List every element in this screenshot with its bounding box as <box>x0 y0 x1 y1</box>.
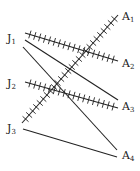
node-label-a2: A2 <box>122 58 134 71</box>
edges-layer <box>0 0 140 171</box>
node-label-j3: J3 <box>7 123 16 136</box>
node-label-j2: J2 <box>7 78 16 91</box>
edge-j1-a3 <box>25 40 118 100</box>
network-diagram: J1 J2 J3 A1 A2 A3 A4 <box>0 0 140 171</box>
edge-j1-a4 <box>23 47 117 150</box>
node-label-a3: A3 <box>122 101 134 114</box>
node-label-a4: A4 <box>122 150 134 163</box>
node-label-a1: A1 <box>122 11 134 24</box>
edge-j3-a4 <box>23 129 117 157</box>
edge-j2-a3-hatched <box>25 80 118 111</box>
node-label-j1: J1 <box>7 33 16 46</box>
edge-j1-a2-hatched <box>25 31 118 64</box>
